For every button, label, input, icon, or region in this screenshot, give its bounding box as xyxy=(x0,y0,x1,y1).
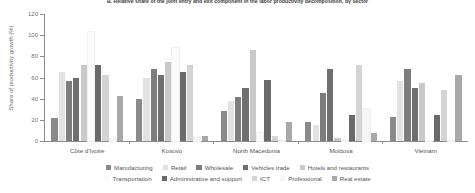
bar[interactable] xyxy=(441,90,447,141)
x-axis-group-label: Vietnam xyxy=(366,147,475,154)
x-tick-mark xyxy=(213,141,214,144)
bar[interactable] xyxy=(334,138,340,141)
legend-item[interactable]: Administrative and support xyxy=(162,175,242,182)
y-tick-mark xyxy=(40,99,44,100)
bar[interactable] xyxy=(66,81,72,141)
legend-item[interactable]: Professional xyxy=(280,175,322,182)
bar[interactable] xyxy=(81,65,87,141)
bar[interactable] xyxy=(136,99,142,141)
legend-label: Manufacturing xyxy=(114,164,153,171)
bar[interactable] xyxy=(110,139,116,141)
bar[interactable] xyxy=(257,133,263,141)
bar[interactable] xyxy=(95,65,101,141)
legend-swatch-icon xyxy=(332,176,337,181)
bar[interactable] xyxy=(158,75,164,141)
legend-item[interactable]: Real estate xyxy=(332,175,371,182)
legend-label: Real estate xyxy=(340,175,371,182)
bar[interactable] xyxy=(51,118,57,141)
legend-item[interactable]: ICT xyxy=(252,175,270,182)
chart-figure: B. Relative share of the joint entry and… xyxy=(0,0,475,193)
x-tick-mark xyxy=(382,141,383,144)
bar[interactable] xyxy=(250,50,256,141)
bar[interactable] xyxy=(264,80,270,141)
legend-label: Transportation xyxy=(113,175,152,182)
y-tick-label: 60 xyxy=(31,74,38,80)
y-tick-label: 100 xyxy=(28,32,38,38)
bar-group: Côte d'Ivoire xyxy=(45,14,130,141)
legend-swatch-icon xyxy=(280,176,285,181)
legend-item[interactable]: Wholesale xyxy=(196,164,233,171)
bar[interactable] xyxy=(286,122,292,141)
legend-item[interactable]: Transportation xyxy=(104,175,151,182)
legend-swatch-icon xyxy=(106,165,111,170)
bar[interactable] xyxy=(59,72,65,141)
bar[interactable] xyxy=(455,75,461,141)
legend-swatch-icon xyxy=(163,165,168,170)
bar[interactable] xyxy=(371,133,377,141)
legend-label: Professional xyxy=(288,175,322,182)
bar[interactable] xyxy=(172,48,178,141)
bar[interactable] xyxy=(73,78,79,142)
y-tick-mark xyxy=(40,14,44,15)
bar[interactable] xyxy=(434,115,440,141)
legend-item[interactable]: Hotels and restaurants xyxy=(300,164,370,171)
bar[interactable] xyxy=(187,65,193,141)
legend-label: Retail xyxy=(171,164,187,171)
bar[interactable] xyxy=(320,93,326,141)
y-tick-mark xyxy=(40,120,44,121)
legend-row-primary: ManufacturingRetailWholesaleVehicles tra… xyxy=(0,162,475,173)
bar[interactable] xyxy=(235,97,241,141)
bar[interactable] xyxy=(165,62,171,141)
bar[interactable] xyxy=(419,83,425,141)
bar[interactable] xyxy=(272,136,278,141)
legend-label: Hotels and restaurants xyxy=(308,164,369,171)
bar[interactable] xyxy=(390,117,396,141)
bar[interactable] xyxy=(397,81,403,141)
bar[interactable] xyxy=(117,96,123,142)
bar[interactable] xyxy=(349,115,355,141)
bar[interactable] xyxy=(151,69,157,141)
bar[interactable] xyxy=(143,78,149,142)
bar[interactable] xyxy=(363,109,369,141)
bar[interactable] xyxy=(305,122,311,141)
bar-group: Kosovo xyxy=(130,14,215,141)
bar-group: North Macedonia xyxy=(214,14,299,141)
bar[interactable] xyxy=(356,65,362,141)
chart-legend: ManufacturingRetailWholesaleVehicles tra… xyxy=(0,162,475,184)
y-tick-mark xyxy=(40,35,44,36)
y-tick-mark xyxy=(40,141,44,142)
bar[interactable] xyxy=(327,69,333,141)
y-tick-mark xyxy=(40,56,44,57)
bar-group: Vietnam xyxy=(383,14,468,141)
bar-group: Moldova xyxy=(299,14,384,141)
bar[interactable] xyxy=(313,125,319,141)
bar[interactable] xyxy=(88,32,94,141)
legend-swatch-icon xyxy=(252,176,257,181)
x-tick-mark xyxy=(129,141,130,144)
bar[interactable] xyxy=(228,101,234,141)
bar[interactable] xyxy=(194,137,200,141)
legend-item[interactable]: Manufacturing xyxy=(106,164,153,171)
y-tick-mark xyxy=(40,78,44,79)
bar[interactable] xyxy=(102,75,108,141)
bar[interactable] xyxy=(221,111,227,141)
bar[interactable] xyxy=(242,88,248,141)
legend-item[interactable]: Retail xyxy=(163,164,187,171)
plot-area: 020406080100120 Côte d'IvoireKosovoNorth… xyxy=(44,14,468,141)
bar[interactable] xyxy=(202,136,208,141)
legend-item[interactable]: Vehicles trade xyxy=(243,164,289,171)
y-tick-label: 40 xyxy=(31,95,38,101)
legend-swatch-icon xyxy=(300,165,305,170)
legend-label: Vehicles trade xyxy=(251,164,289,171)
legend-label: ICT xyxy=(260,175,270,182)
y-tick-label: 80 xyxy=(31,53,38,59)
bar[interactable] xyxy=(404,69,410,141)
bar[interactable] xyxy=(180,72,186,141)
legend-swatch-icon xyxy=(104,176,109,181)
y-tick-label: 0 xyxy=(35,138,38,144)
legend-swatch-icon xyxy=(243,165,248,170)
legend-swatch-icon xyxy=(162,176,167,181)
legend-label: Wholesale xyxy=(205,164,233,171)
legend-swatch-icon xyxy=(196,165,201,170)
bar[interactable] xyxy=(412,88,418,141)
